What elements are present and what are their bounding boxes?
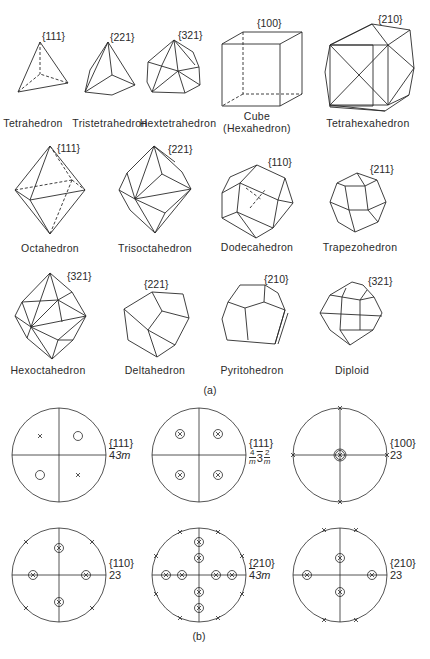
index-label: {221} (168, 143, 193, 155)
form-index: {210} (390, 557, 416, 569)
stereogram-210-23 (293, 528, 387, 622)
index-label: {321} (368, 275, 393, 287)
form-index: {100} (390, 437, 416, 449)
form-index: {111} (109, 437, 133, 449)
index-label: {100} (257, 17, 282, 29)
frac-den: m (264, 457, 271, 466)
form-name-hexoctahedron: Hexoctahedron (10, 364, 85, 376)
index-label: {110} (268, 156, 292, 168)
index-label: {221} (110, 31, 135, 43)
index-label: {210} (378, 13, 403, 25)
stereogram-110-23 (12, 528, 106, 622)
frac-den: m (249, 457, 256, 466)
form-name-trisoctahedron: Trisoctahedron (118, 242, 192, 254)
stereogram-label: {100} 23 (390, 437, 416, 461)
stereogram-111-43m (12, 408, 106, 502)
form-index: {110} (109, 557, 134, 569)
index-label: {210} (264, 273, 289, 285)
form-name-tetrahedron: Tetrahedron (3, 117, 62, 129)
form-name-tetrahexahedron: Tetrahexahedron (326, 117, 409, 129)
form-name-tristetrahedron: Tristetrahedron (72, 117, 147, 129)
form-name-pyritohedron: Pyritohedron (220, 364, 283, 376)
index-label: {321} (178, 29, 203, 41)
form-name-deltahedron: Deltahedron (125, 364, 186, 376)
part-a-label: (a) (204, 384, 217, 396)
stereogram-label: {210} 43m (249, 557, 275, 581)
symmetry: 23 (109, 569, 134, 581)
index-label: {321} (67, 270, 92, 282)
stereogram-label: {111} 4m 3 2m (249, 437, 273, 466)
form-index: {210} (249, 557, 275, 569)
symmetry-rest: 3m (115, 449, 130, 461)
index-label: {111} (42, 30, 65, 42)
part-b-label: (b) (193, 630, 206, 642)
stereogram-210-43m (152, 528, 246, 622)
index-label: {221} (144, 278, 169, 290)
frac-num: 4 (250, 449, 254, 457)
form-name-trapezohedron: Trapezohedron (323, 241, 398, 253)
frac-num: 2 (265, 449, 269, 457)
symmetry-rest: 3m (255, 569, 270, 581)
symmetry: 23 (390, 569, 416, 581)
symmetry: 23 (390, 449, 416, 461)
form-name-diploid: Diploid (335, 364, 369, 376)
index-label: {211} (370, 163, 394, 175)
form-name-hexahedron: (Hexahedron) (223, 122, 291, 134)
form-name-octahedron: Octahedron (21, 242, 79, 254)
index-label: {111} (57, 142, 80, 154)
stereogram-100-23 (291, 406, 389, 504)
stereogram-label: {111} 43m (109, 437, 133, 461)
stereogram-label: {110} 23 (109, 557, 134, 581)
rotoinversion-bar: 3 (257, 452, 263, 464)
form-name-cube: Cube (244, 110, 270, 122)
stereogram-111-m3m (152, 408, 246, 502)
form-name-dodecahedron: Dodecahedron (221, 241, 294, 253)
stereogram-label: {210} 23 (390, 557, 416, 581)
stereograms-drawing (0, 0, 430, 659)
form-name-hextetrahedron: Hextetrahedron (140, 117, 217, 129)
